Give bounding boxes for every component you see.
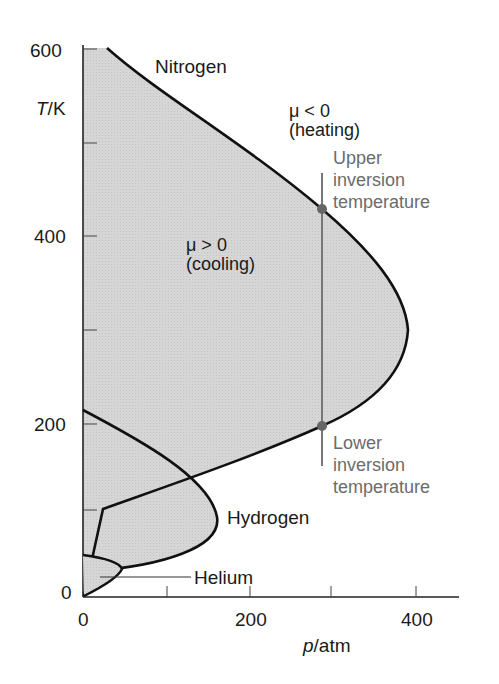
lower-inversion-point <box>317 421 327 431</box>
helium-label: Helium <box>194 568 253 587</box>
cooling-condition: μ > 0 <box>186 236 255 255</box>
upper-inversion-line1: Upper <box>333 147 430 169</box>
heating-region-label: μ < 0 (heating) <box>289 102 360 140</box>
heating-condition: μ < 0 <box>289 102 360 121</box>
upper-inversion-label: Upper inversion temperature <box>333 147 430 213</box>
nitrogen-label: Nitrogen <box>155 57 227 76</box>
lower-inversion-line3: temperature <box>333 476 430 498</box>
y-tick-400: 400 <box>34 227 66 246</box>
upper-inversion-line3: temperature <box>333 191 430 213</box>
y-tick-600: 600 <box>30 41 62 60</box>
x-axis-unit: /atm <box>314 635 351 656</box>
y-axis-title: T/K <box>36 99 66 118</box>
x-tick-200: 200 <box>235 610 267 629</box>
cooling-text: (cooling) <box>186 255 255 274</box>
lower-inversion-line2: inversion <box>333 454 430 476</box>
y-tick-200: 200 <box>34 415 66 434</box>
upper-inversion-point <box>317 204 327 214</box>
x-axis-variable: p <box>303 635 314 656</box>
upper-inversion-line2: inversion <box>333 169 430 191</box>
x-tick-400: 400 <box>401 610 433 629</box>
y-axis-variable: T <box>36 98 48 119</box>
x-tick-0: 0 <box>78 610 89 629</box>
lower-inversion-label: Lower inversion temperature <box>333 432 430 498</box>
y-tick-0: 0 <box>61 583 72 602</box>
lower-inversion-line1: Lower <box>333 432 430 454</box>
y-axis-unit: /K <box>48 98 66 119</box>
heating-text: (heating) <box>289 121 360 140</box>
cooling-region-label: μ > 0 (cooling) <box>186 236 255 274</box>
hydrogen-label: Hydrogen <box>227 508 309 527</box>
x-axis-title: p/atm <box>303 636 351 655</box>
